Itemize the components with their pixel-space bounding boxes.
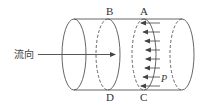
pipe-outlet-front-half	[182, 19, 194, 90]
pipe-outlet-back-half	[170, 19, 182, 90]
section-ac-back-half	[132, 19, 144, 90]
label-b: B	[106, 5, 113, 17]
flow-label: 流向	[14, 48, 34, 60]
pipe-flow-diagram: 流向 B A D C P	[0, 0, 205, 105]
pressure-arrows	[141, 23, 160, 86]
label-d: D	[106, 91, 114, 103]
label-c: C	[140, 91, 147, 103]
section-ac-front-half	[144, 19, 156, 90]
label-a: A	[140, 5, 148, 17]
pressure-label: P	[160, 73, 167, 84]
